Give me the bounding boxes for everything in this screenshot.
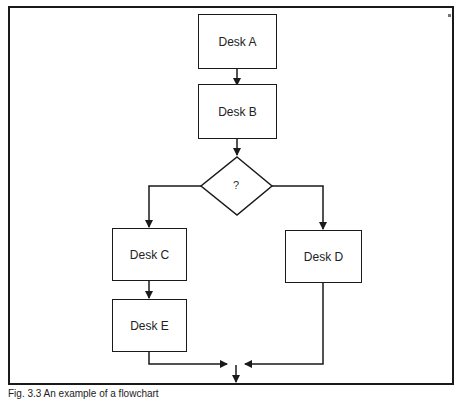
node-desk-a: Desk A xyxy=(198,14,277,69)
node-desk-b: Desk B xyxy=(198,84,277,139)
node-label: Desk A xyxy=(218,35,256,49)
node-desk-d: Desk D xyxy=(285,230,362,283)
node-desk-c: Desk C xyxy=(112,228,187,281)
decision-label: ? xyxy=(233,179,239,191)
node-label: Desk D xyxy=(304,250,343,264)
node-desk-e: Desk E xyxy=(112,299,187,352)
node-label: Desk E xyxy=(130,319,169,333)
node-label: Desk C xyxy=(130,248,169,262)
node-label: Desk B xyxy=(218,105,257,119)
figure-caption: Fig. 3.3 An example of a flowchart xyxy=(8,388,159,399)
